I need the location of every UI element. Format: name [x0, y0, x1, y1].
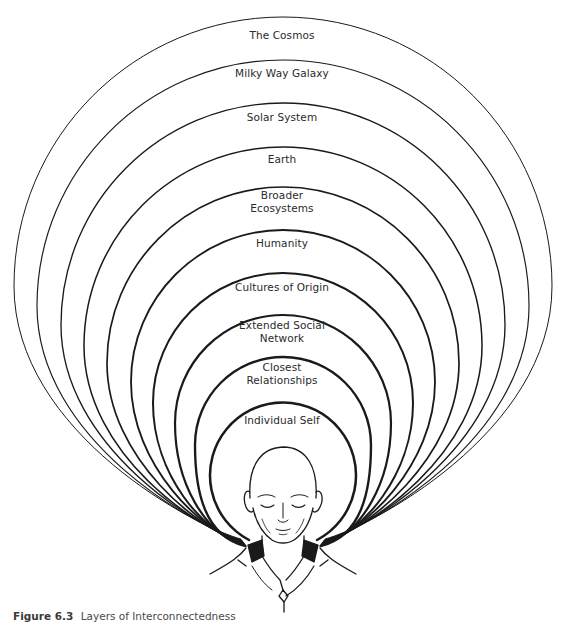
layer-label: ClosestRelationships	[0, 361, 564, 387]
layer-label: Milky Way Galaxy	[0, 67, 564, 80]
layer-label: The Cosmos	[0, 29, 564, 42]
layer-label: Earth	[0, 153, 564, 166]
figure-number: Figure 6.3	[13, 610, 73, 622]
layer-label: Humanity	[0, 237, 564, 250]
figure-title: Layers of Interconnectedness	[81, 610, 236, 622]
layer-label: BroaderEcosystems	[0, 189, 564, 215]
layer-label: Individual Self	[0, 414, 564, 427]
layer-label: Extended SocialNetwork	[0, 319, 564, 345]
layer-label: Cultures of Origin	[0, 281, 564, 294]
layer-label: Solar System	[0, 111, 564, 124]
diagram-canvas: The CosmosMilky Way GalaxySolar SystemEa…	[0, 0, 564, 637]
layer-arc	[37, 60, 529, 540]
person-figure-icon	[210, 447, 356, 612]
figure-caption: Figure 6.3 Layers of Interconnectedness	[13, 610, 236, 622]
layer-arc	[14, 17, 552, 539]
